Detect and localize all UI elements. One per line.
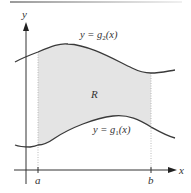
y-axis-label: y bbox=[21, 8, 27, 20]
lower-curve-label-suffix: (x) bbox=[119, 124, 131, 136]
upper-curve-label: y = g2(x) bbox=[79, 29, 118, 42]
x-axis-label: x bbox=[178, 164, 184, 176]
region-label: R bbox=[90, 88, 98, 100]
region-between-curves-diagram: y x a b R y = g2(x) y = g1(x) bbox=[0, 0, 191, 193]
lower-curve-label-prefix: y = g bbox=[92, 124, 115, 135]
top-rule-divider bbox=[10, 1, 182, 3]
upper-curve-label-suffix: (x) bbox=[106, 29, 118, 41]
upper-curve-label-prefix: y = g bbox=[79, 29, 102, 40]
x-axis-arrow-icon bbox=[168, 167, 177, 173]
lower-curve-label: y = g1(x) bbox=[92, 124, 131, 137]
tick-label-a: a bbox=[35, 174, 41, 186]
diagram-canvas: y x a b R y = g2(x) y = g1(x) bbox=[0, 0, 191, 193]
tick-label-b: b bbox=[148, 174, 154, 186]
y-axis-arrow-icon bbox=[23, 22, 29, 31]
